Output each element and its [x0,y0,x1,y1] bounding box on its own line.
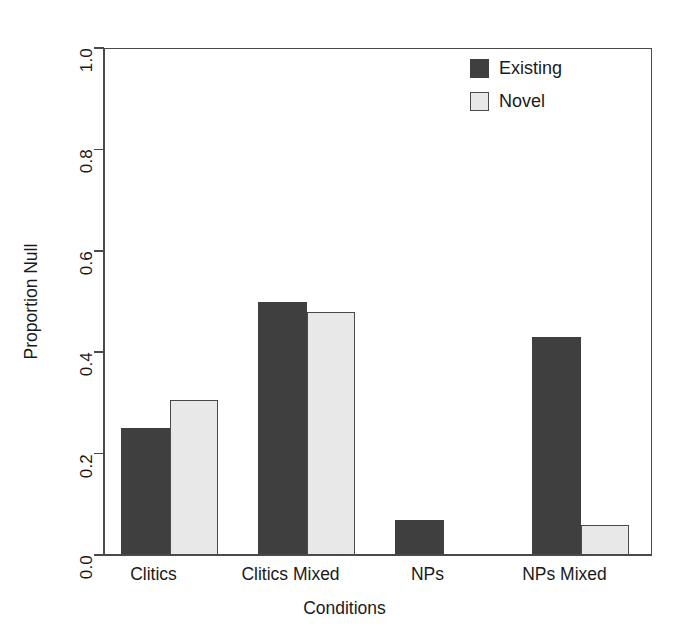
bar-novel-nps-mixed [581,525,630,555]
y-axis-tick-label: 1.0 [77,48,97,72]
x-axis-title: Conditions [0,598,689,619]
bars-layer [104,48,652,555]
y-axis-tick: 0.6 [94,250,104,252]
y-axis-tick-label: 0.4 [77,352,97,376]
chart-legend: Existing Novel [470,58,562,112]
y-axis-tick: 0.0 [94,554,104,556]
y-axis-tick-label: 0.2 [77,454,97,478]
legend-label-existing: Existing [499,58,562,79]
x-axis-tick-label: NPs Mixed [522,564,607,585]
legend-label-novel: Novel [499,91,545,112]
legend-swatch-novel-icon [470,92,489,111]
y-axis-tick-label: 0.6 [77,251,97,275]
bar-novel-clitics-mixed [307,312,356,555]
legend-item-novel: Novel [470,91,562,112]
x-axis-tick-label: Clitics Mixed [241,564,339,585]
bar-existing-clitics-mixed [258,302,307,556]
bar-chart-figure: Proportion Null 0.00.20.40.60.81.0 Cliti… [0,0,689,644]
x-axis-tick-label: Clitics [130,564,177,585]
y-axis-title-text: Proportion Null [21,244,42,360]
legend-item-existing: Existing [470,58,562,79]
x-axis-tick-label: NPs [411,564,444,585]
x-axis-title-text: Conditions [303,598,386,618]
y-axis-title: Proportion Null [18,48,44,555]
y-axis-tick: 0.8 [94,149,104,151]
y-axis-tick: 1.0 [94,47,104,49]
bar-existing-nps-mixed [532,337,581,555]
bar-existing-clitics [121,428,170,555]
y-axis-tick-label: 0.0 [77,555,97,579]
y-axis-tick: 0.4 [94,351,104,353]
x-axis-line [104,554,652,556]
y-axis-tick-label: 0.8 [77,149,97,173]
y-axis-tick: 0.2 [94,453,104,455]
bar-existing-nps [395,520,444,555]
legend-swatch-existing-icon [470,59,489,78]
bar-novel-clitics [170,400,219,555]
